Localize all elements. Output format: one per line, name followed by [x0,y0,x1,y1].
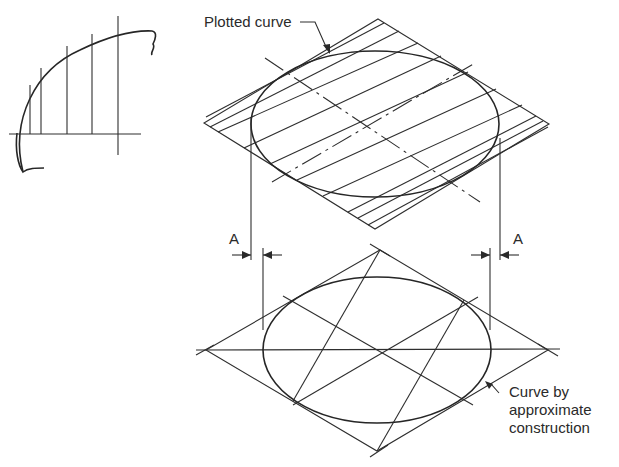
hatch-line [244,56,441,148]
approx-label-line-2: approximate [509,401,592,418]
plotted-view: Plotted curve [204,13,549,229]
dim-a-right-label: A [513,230,523,247]
approx-label-line-1: Curve by [509,383,570,400]
approximate-view: Curve by approximate construction [196,244,592,457]
hatch-line [210,31,399,127]
hatch-line [323,105,522,196]
dimensions: A A [229,118,523,330]
construction-line [293,297,478,405]
true-shape-arc [20,31,156,172]
approx-label-line-3: construction [509,419,590,436]
construction-line [377,300,464,451]
construction-line [293,250,380,401]
hatch-line [358,121,543,218]
dim-a-right-arrowhead-2 [500,251,509,259]
construction-line [283,296,473,405]
plotted-curve-leader [300,22,327,49]
hatch-line [270,72,468,164]
dim-a-left-arrowhead [242,251,251,259]
true-shape-view [9,16,156,172]
approx-curve-arrowhead [485,381,493,389]
dim-a-right-arrowhead [481,251,490,259]
plotted-curve-arrowhead [323,44,330,54]
dim-a-left-arrowhead-2 [263,251,272,259]
hatch-line [297,89,496,180]
centre-line-minor [272,63,475,182]
diagram-canvas: Plotted curve A A [0,0,619,467]
hatch-line [368,127,548,225]
dim-a-left-label: A [229,230,239,247]
major-axis [196,349,560,350]
plotted-curve-label: Plotted curve [204,13,292,30]
hatch-line [218,43,418,132]
